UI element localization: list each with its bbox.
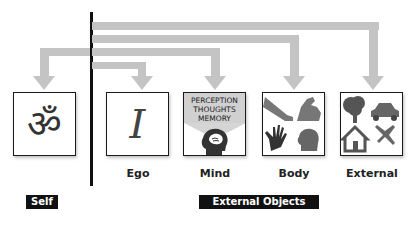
- body-label: Body: [254, 167, 334, 180]
- external-label: External: [332, 167, 412, 180]
- om-icon: ॐ: [14, 93, 75, 155]
- letter-i-icon: I: [107, 93, 168, 155]
- body-parts-icon: [263, 93, 323, 154]
- arrow-to-self-head: [33, 76, 55, 90]
- mind-text: PERCEPTION THOUGHTS MEMORY: [184, 96, 245, 123]
- head-brain-icon: [198, 127, 234, 156]
- external-box: [340, 92, 403, 156]
- arrow-to-ego-head: [131, 76, 153, 90]
- arm-icon: [297, 97, 321, 121]
- thoughts-text: THOUGHTS: [184, 105, 245, 114]
- arrow-to-external-drop: [369, 22, 378, 78]
- arrow-to-external-shaft: [92, 22, 379, 30]
- head-icon: [298, 129, 319, 151]
- hand-icon: [265, 125, 287, 151]
- arrow-to-mind-shaft: [92, 48, 220, 56]
- house-icon: [343, 127, 367, 151]
- self-group-tag: Self: [26, 195, 58, 209]
- memory-text: MEMORY: [184, 114, 245, 123]
- body-box: [262, 92, 325, 156]
- mind-label: Mind: [175, 167, 255, 180]
- tree-icon: [343, 96, 365, 123]
- car-icon: [371, 103, 399, 121]
- leg-icon: [263, 97, 293, 121]
- self-box: ॐ: [13, 92, 76, 156]
- external-objects-icon: [341, 93, 401, 154]
- arrow-to-body-shaft: [92, 35, 299, 43]
- ego-label: Ego: [98, 167, 178, 180]
- mind-box: PERCEPTION THOUGHTS MEMORY: [183, 92, 246, 156]
- arrow-to-body-head: [283, 76, 305, 90]
- airplane-icon: [375, 125, 395, 145]
- ego-box: I: [106, 92, 169, 156]
- perception-text: PERCEPTION: [184, 96, 245, 105]
- arrow-to-mind-drop: [211, 48, 220, 78]
- arrow-to-mind-head: [204, 76, 226, 90]
- arrow-to-body-drop: [290, 35, 299, 78]
- arrow-to-external-head: [362, 76, 384, 90]
- external-objects-group-tag: External Objects: [199, 195, 319, 209]
- arrow-to-self-drop: [40, 48, 49, 78]
